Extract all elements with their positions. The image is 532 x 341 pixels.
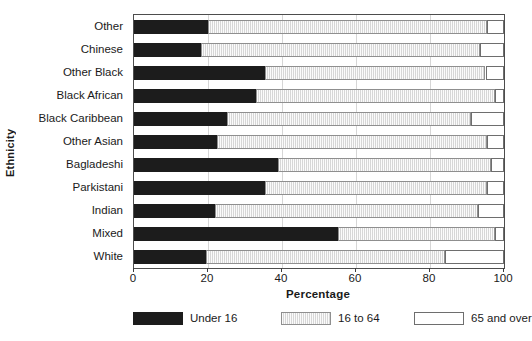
bar-segment[interactable]	[278, 158, 491, 172]
bar-row[interactable]	[134, 181, 504, 195]
bar-segment[interactable]	[445, 250, 504, 264]
bar-segment[interactable]	[227, 112, 471, 126]
bar-segment[interactable]	[478, 204, 504, 218]
bar-segment[interactable]	[134, 158, 278, 172]
category-label: Chinese	[81, 42, 123, 56]
bar-segment[interactable]	[134, 89, 256, 103]
bar-segment[interactable]	[487, 181, 504, 195]
bar-segment[interactable]	[487, 20, 504, 34]
legend-label: 65 and over	[471, 311, 532, 325]
stacked-bar-chart-figure: Ethnicity OtherChineseOther BlackBlack A…	[0, 0, 532, 341]
bar-row[interactable]	[134, 158, 504, 172]
legend-item[interactable]: 16 to 64	[281, 310, 380, 326]
bar-segment[interactable]	[134, 250, 206, 264]
category-label: Bagladeshi	[66, 157, 123, 171]
bar-row[interactable]	[134, 20, 504, 34]
legend-item[interactable]: 65 and over	[414, 310, 532, 326]
bar-segment[interactable]	[134, 66, 265, 80]
bar-segment[interactable]	[487, 135, 504, 149]
category-label: Other Black	[63, 65, 123, 79]
black-filled-swatch	[133, 312, 183, 325]
bar-segment[interactable]	[201, 43, 480, 57]
legend-label: Under 16	[190, 311, 237, 325]
bar-row[interactable]	[134, 250, 504, 264]
bar-segment[interactable]	[491, 158, 504, 172]
legend-item[interactable]: Under 16	[133, 310, 237, 326]
bar-row[interactable]	[134, 66, 504, 80]
x-axis-title: Percentage	[133, 288, 503, 300]
bar-row[interactable]	[134, 135, 504, 149]
plot-area	[133, 14, 505, 269]
bar-segment[interactable]	[217, 135, 487, 149]
bar-segment[interactable]	[471, 112, 504, 126]
white-outlined-swatch	[414, 312, 464, 325]
category-label: Black Caribbean	[39, 111, 123, 125]
bar-row[interactable]	[134, 204, 504, 218]
bar-segment[interactable]	[486, 66, 505, 80]
category-label: Mixed	[92, 226, 123, 240]
category-label: Parkistani	[73, 180, 124, 194]
category-label: Other	[94, 19, 123, 33]
x-tick-label: 0	[130, 271, 136, 285]
bar-row[interactable]	[134, 89, 504, 103]
bar-row[interactable]	[134, 43, 504, 57]
legend-label: 16 to 64	[338, 311, 380, 325]
bar-segment[interactable]	[495, 227, 504, 241]
category-label: Other Asian	[63, 134, 123, 148]
bar-segment[interactable]	[495, 89, 504, 103]
x-tick-label: 60	[349, 271, 362, 285]
bar-segment[interactable]	[134, 204, 215, 218]
x-tick-label: 20	[201, 271, 214, 285]
x-tick-label: 100	[493, 271, 512, 285]
y-axis-title: Ethnicity	[2, 108, 18, 198]
chart-legend: Under 1616 to 6465 and over	[133, 310, 503, 328]
x-axis-tick-labels: 020406080100	[133, 271, 503, 287]
bar-segment[interactable]	[215, 204, 478, 218]
category-label: White	[94, 249, 123, 263]
bar-segment[interactable]	[265, 181, 487, 195]
bar-segment[interactable]	[134, 135, 217, 149]
grey-hatched-swatch	[281, 312, 331, 325]
bar-segment[interactable]	[256, 89, 495, 103]
category-label: Black African	[57, 88, 123, 102]
bar-series-container	[134, 15, 504, 268]
bar-segment[interactable]	[480, 43, 504, 57]
bar-segment[interactable]	[338, 227, 495, 241]
bar-segment[interactable]	[134, 43, 201, 57]
category-label: Indian	[92, 203, 123, 217]
bar-segment[interactable]	[134, 227, 338, 241]
x-tick-label: 40	[275, 271, 288, 285]
y-axis-category-labels: OtherChineseOther BlackBlack AfricanBlac…	[18, 14, 128, 267]
bar-segment[interactable]	[265, 66, 485, 80]
bar-segment[interactable]	[208, 20, 487, 34]
bar-segment[interactable]	[134, 20, 208, 34]
bar-segment[interactable]	[206, 250, 445, 264]
bar-segment[interactable]	[134, 112, 227, 126]
bar-row[interactable]	[134, 112, 504, 126]
bar-segment[interactable]	[134, 181, 265, 195]
bar-row[interactable]	[134, 227, 504, 241]
x-tick-label: 80	[423, 271, 436, 285]
